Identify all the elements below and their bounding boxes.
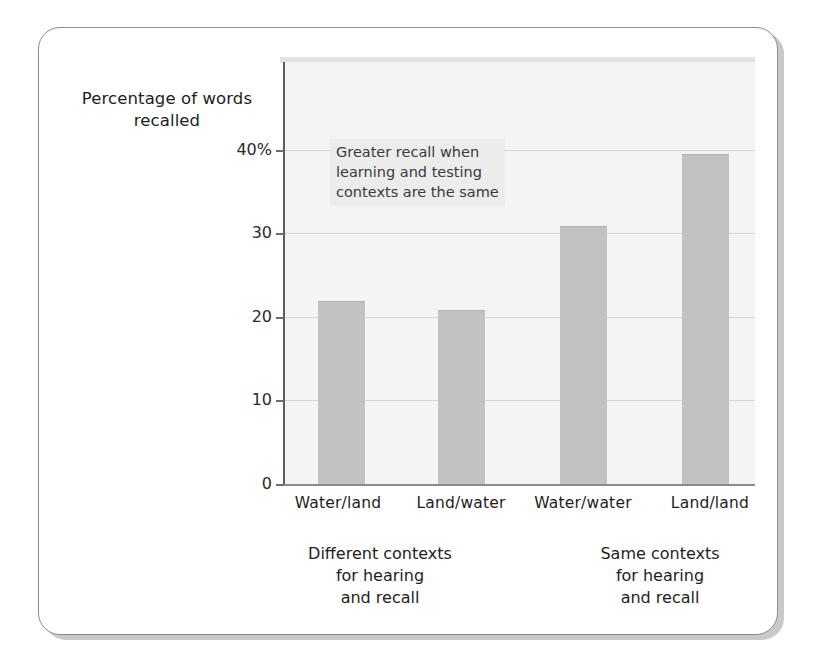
y-tick-label-40: 40% [202, 140, 272, 159]
y-tick-mark-40 [276, 150, 284, 152]
y-tick-mark-20 [276, 317, 284, 319]
group-caption-different-contexts: Different contexts for hearing and recal… [280, 543, 480, 609]
bar-water-land [318, 301, 365, 484]
y-tick-label-20: 20 [202, 307, 272, 326]
y-tick-mark-30 [276, 233, 284, 235]
y-tick-label-0: 0 [202, 474, 272, 493]
y-axis-title: Percentage of words recalled [72, 88, 262, 132]
bar-land-land [682, 154, 729, 484]
x-axis-line [283, 484, 755, 486]
y-tick-label-10: 10 [202, 390, 272, 409]
category-label-land-land: Land/land [630, 494, 790, 512]
bar-land-water [438, 310, 485, 484]
y-tick-label-30: 30 [202, 223, 272, 242]
group-caption-same-contexts: Same contexts for hearing and recall [560, 543, 760, 609]
figure-root: Percentage of words recalled 40% 30 20 1… [0, 0, 815, 672]
chart-annotation: Greater recall when learning and testing… [330, 139, 505, 206]
plot-area [285, 62, 755, 485]
bar-water-water [560, 226, 607, 484]
y-axis-line [283, 62, 285, 485]
y-tick-mark-10 [276, 400, 284, 402]
y-tick-mark-0 [276, 484, 284, 486]
